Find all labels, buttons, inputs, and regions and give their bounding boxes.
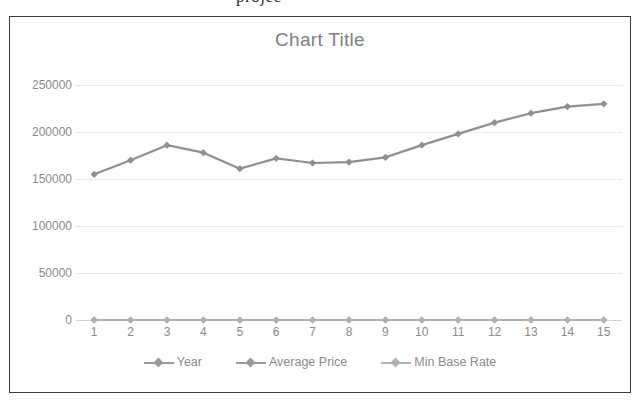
legend-label: Average Price (269, 355, 347, 369)
y-tick-label: 100000 (10, 219, 72, 233)
diamond-marker (236, 357, 266, 368)
x-tick-label: 1 (91, 325, 98, 339)
clipped-text-fragment: projec (236, 0, 281, 7)
diamond-marker (382, 154, 389, 161)
diamond-marker (273, 155, 280, 162)
diamond-marker (527, 110, 534, 117)
x-tick-label: 15 (597, 325, 610, 339)
diamond-marker (418, 316, 425, 323)
diamond-marker (144, 357, 174, 368)
diamond-marker (527, 316, 534, 323)
legend-entry[interactable]: Year (144, 355, 202, 369)
diamond-marker (309, 316, 316, 323)
y-tick-label: 250000 (10, 78, 72, 92)
diamond-marker (91, 171, 98, 178)
legend-label: Year (177, 355, 202, 369)
diamond-marker (236, 316, 243, 323)
x-tick-label: 8 (346, 325, 353, 339)
series-layer (76, 85, 622, 320)
diamond-marker (564, 103, 571, 110)
diamond-marker (491, 316, 498, 323)
diamond-marker (200, 316, 207, 323)
chart-legend: YearAverage PriceMin Base Rate (10, 355, 630, 369)
diamond-marker (200, 149, 207, 156)
series-min-base-rate (91, 316, 608, 323)
diamond-marker (236, 165, 243, 172)
x-tick-label: 4 (200, 325, 207, 339)
diamond-marker (163, 142, 170, 149)
diamond-marker (127, 157, 134, 164)
chart-title: Chart Title (10, 29, 630, 51)
x-tick-label: 5 (236, 325, 243, 339)
x-tick-label: 13 (524, 325, 537, 339)
clipped-page-text: projec (0, 0, 640, 16)
x-axis: 123456789101112131415 (76, 325, 622, 345)
x-tick-label: 2 (127, 325, 134, 339)
diamond-marker (273, 316, 280, 323)
diamond-marker (127, 316, 134, 323)
legend-diamond-icon (391, 357, 401, 367)
diamond-marker (381, 357, 411, 368)
x-tick-label: 11 (452, 325, 464, 339)
diamond-marker (418, 142, 425, 149)
x-tick-label: 7 (309, 325, 316, 339)
x-tick-label: 9 (382, 325, 389, 339)
diamond-marker (345, 316, 352, 323)
diamond-marker (600, 100, 607, 107)
diamond-marker (455, 130, 462, 137)
x-tick-label: 12 (488, 325, 501, 339)
y-axis: 050000100000150000200000250000 (10, 85, 72, 320)
chart-container: Chart Title 0500001000001500002000002500… (9, 16, 631, 393)
legend-entry[interactable]: Average Price (236, 355, 347, 369)
diamond-marker (455, 316, 462, 323)
diamond-marker (491, 119, 498, 126)
diamond-marker (309, 159, 316, 166)
x-tick-label: 6 (273, 325, 280, 339)
legend-diamond-icon (153, 357, 163, 367)
series-average-price (91, 100, 608, 178)
diamond-marker (345, 158, 352, 165)
plot-area (76, 85, 622, 320)
x-tick-label: 14 (561, 325, 574, 339)
y-tick-label: 0 (10, 313, 72, 327)
diamond-marker (564, 316, 571, 323)
legend-diamond-icon (246, 357, 256, 367)
diamond-marker (163, 316, 170, 323)
y-tick-label: 200000 (10, 125, 72, 139)
diamond-marker (382, 316, 389, 323)
y-tick-label: 50000 (10, 266, 72, 280)
legend-label: Min Base Rate (414, 355, 496, 369)
diamond-marker (91, 316, 98, 323)
legend-entry[interactable]: Min Base Rate (381, 355, 496, 369)
x-tick-label: 10 (415, 325, 428, 339)
x-tick-label: 3 (164, 325, 171, 339)
diamond-marker (600, 316, 607, 323)
y-tick-label: 150000 (10, 172, 72, 186)
